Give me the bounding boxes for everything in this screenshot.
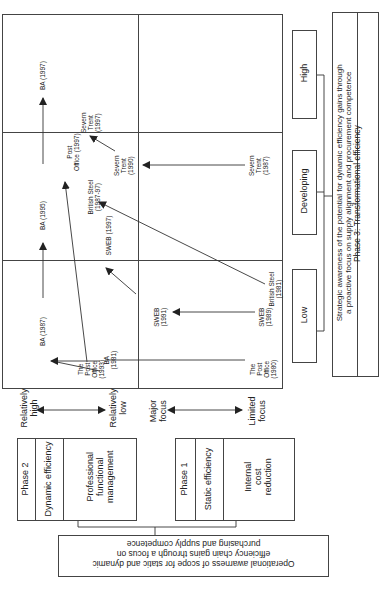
label-ba-1997: BA (1997) xyxy=(39,56,46,96)
phase1-divider-2 xyxy=(223,438,224,521)
label-sweb-1997: SWEB (1997) xyxy=(105,214,112,258)
label-british-steel-1987-97: British Steel(1987-97) xyxy=(87,175,101,219)
level-high-label: High xyxy=(300,48,310,98)
label-post-office-1993: ThePostOffice(1993) xyxy=(77,354,106,384)
phase2-divider-1 xyxy=(35,438,36,521)
phase3-description: Strategic awareness of the potential for… xyxy=(336,15,354,371)
phase1-divider-1 xyxy=(195,438,196,521)
label-severn-1997: SevernTrent(1997) xyxy=(80,108,101,138)
phase2-divider-2 xyxy=(63,438,64,521)
level-developing-label: Developing xyxy=(300,160,310,222)
label-ba-1987: BA (1987) xyxy=(39,312,46,352)
axis-major-focus: Majorfocus xyxy=(149,393,169,429)
axis-relatively-low: Relativelylow xyxy=(109,388,129,428)
phase1-type: Static efficiency xyxy=(204,434,214,524)
label-severn-1987: SevernTrent(1987) xyxy=(248,151,269,181)
label-sweb-1991: SWEB(1991) xyxy=(153,302,167,332)
level-low-label: Low xyxy=(300,290,310,340)
label-sweb-1989: SWEB(1989) xyxy=(258,302,272,332)
label-post-office-1980: ThePostOffice(1980) xyxy=(249,354,278,384)
phase1-box xyxy=(175,438,295,521)
label-post-office-1997: PostOffice (1997) xyxy=(66,130,80,174)
phase1-focus: Internalcostreduction xyxy=(244,442,274,512)
phase2-type: Dynamic efficiency xyxy=(44,434,54,524)
phase2-label: Phase 2 xyxy=(21,449,31,509)
phase1-label: Phase 1 xyxy=(180,449,190,509)
axis-limited-focus: Limitedfocus xyxy=(248,393,268,429)
phase3-title: Phase 3: Transformational efficiency xyxy=(353,54,362,334)
operational-description: Operational awarness of scope for static… xyxy=(60,539,327,568)
axis-relatively-high: Relativelyhigh xyxy=(20,388,40,428)
phase2-focus: Professionalfunctionalmanagement xyxy=(86,442,116,512)
label-ba-1995: BA (1995) xyxy=(39,196,46,236)
label-severn-1990: SevernTrent(1990) xyxy=(113,151,134,181)
